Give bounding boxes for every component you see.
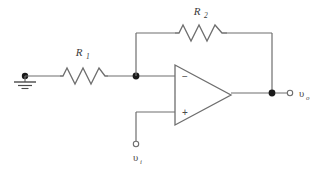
- circuit-diagram-canvas: R 1 R 2 − +: [0, 0, 319, 172]
- resistor-r1-zigzag: [60, 68, 108, 84]
- circuit-schematic-svg: R 1 R 2 − +: [0, 0, 319, 172]
- resistor-r1-label: R: [75, 46, 83, 58]
- output-node-dot: [269, 90, 276, 97]
- resistor-r2-label: R: [193, 5, 201, 17]
- resistor-r1: R 1: [60, 46, 108, 84]
- input-terminal-label: υ: [133, 152, 138, 163]
- resistor-r1-subscript: 1: [86, 52, 90, 61]
- output-terminal-label: υ: [299, 88, 304, 99]
- opamp-noninverting-pin-label: +: [182, 107, 188, 118]
- output-terminal-circle: [287, 90, 292, 95]
- output-terminal-subscript: o: [306, 94, 310, 102]
- output-terminal: υ o: [287, 88, 310, 102]
- opamp-inverting-pin-label: −: [182, 71, 188, 82]
- input-terminal-subscript: i: [140, 158, 142, 166]
- resistor-r2: R 2: [175, 5, 227, 41]
- opamp-symbol: − +: [175, 65, 231, 125]
- input-terminal: υ i: [133, 141, 142, 166]
- input-terminal-circle: [133, 141, 138, 146]
- resistor-r2-zigzag: [175, 25, 227, 41]
- resistor-r2-subscript: 2: [204, 11, 208, 20]
- ground-symbol: [14, 73, 36, 89]
